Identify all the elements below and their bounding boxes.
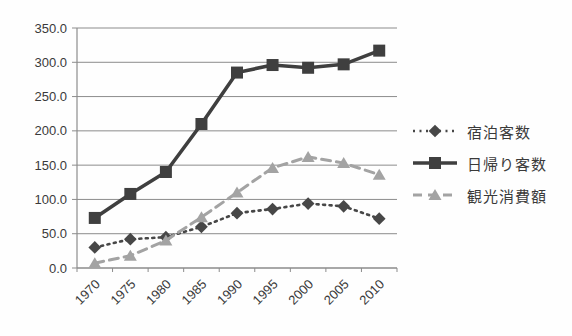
legend-item-2: 観光消費額 [412, 185, 547, 205]
series-0 [88, 197, 385, 254]
y-tick-label: 350.0 [34, 21, 67, 36]
x-tick-label: 1990 [214, 277, 245, 308]
legend-item-0: 宿泊客数 [412, 121, 547, 141]
y-axis-labels: 0.050.0100.0150.0200.0250.0300.0350.0 [34, 21, 67, 276]
legend-label: 観光消費額 [467, 185, 547, 206]
y-tick-label: 150.0 [34, 158, 67, 173]
chart-figure: 0.050.0100.0150.0200.0250.0300.0350.0197… [0, 0, 572, 336]
y-tick-label: 50.0 [42, 226, 67, 241]
x-tick-label: 1970 [72, 277, 103, 308]
legend-item-1: 日帰り客数 [412, 153, 547, 173]
x-tick-label: 1995 [250, 277, 281, 308]
legend-label: 日帰り客数 [467, 153, 547, 174]
x-tick-label: 2000 [285, 277, 316, 308]
x-tick-label: 1985 [179, 277, 210, 308]
y-tick-label: 200.0 [34, 123, 67, 138]
x-axis-labels: 197019751980198519901995200020052010 [72, 277, 388, 308]
x-tick-label: 1980 [143, 277, 174, 308]
y-tick-label: 300.0 [34, 55, 67, 70]
x-tick-label: 2010 [356, 277, 387, 308]
x-tick-label: 1975 [107, 277, 138, 308]
x-tick-label: 2005 [321, 277, 352, 308]
y-tick-label: 100.0 [34, 192, 67, 207]
square-marker-icon [412, 155, 458, 171]
y-tick-label: 250.0 [34, 89, 67, 104]
chart-legend: 宿泊客数日帰り客数観光消費額 [412, 121, 547, 217]
diamond-marker-icon [412, 123, 458, 139]
legend-label: 宿泊客数 [467, 121, 531, 142]
y-tick-label: 0.0 [49, 261, 67, 276]
triangle-marker-icon [412, 187, 458, 203]
